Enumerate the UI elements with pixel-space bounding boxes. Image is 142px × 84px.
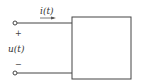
top-terminal <box>13 21 17 25</box>
network-box <box>72 17 131 79</box>
plus-sign: + <box>15 29 22 38</box>
bottom-terminal <box>13 71 17 75</box>
current-arrow-icon <box>40 17 56 20</box>
voltage-label: u(t) <box>8 44 25 54</box>
circuit-diagram: i(t) + u(t) − <box>0 0 142 84</box>
current-label: i(t) <box>40 6 54 16</box>
minus-sign: − <box>15 60 22 69</box>
